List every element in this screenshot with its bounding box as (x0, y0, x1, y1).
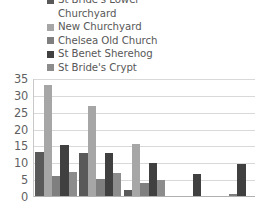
legend-item-label: St Benet Sherehog (58, 47, 153, 61)
bar[interactable] (113, 173, 121, 196)
bar[interactable] (88, 106, 96, 196)
bar[interactable] (35, 152, 43, 196)
legend-item[interactable]: St Bride's Crypt (47, 61, 247, 75)
legend-item[interactable]: St Bride's Lower (47, 0, 247, 7)
bar-group (78, 79, 122, 196)
bar[interactable] (237, 164, 245, 196)
bar[interactable] (149, 163, 157, 196)
bar-group (167, 79, 211, 196)
y-axis-tick-label: 20 (14, 123, 28, 137)
legend-swatch-icon (47, 37, 54, 44)
y-axis-tick-label: 30 (14, 89, 28, 103)
bar[interactable] (157, 180, 165, 196)
bar-group (211, 79, 255, 196)
bar[interactable] (193, 174, 201, 196)
bar[interactable] (60, 145, 68, 196)
y-axis-tick-label: 35 (14, 72, 28, 86)
y-axis-tick-labels: 35302520151050 (0, 79, 32, 197)
bar[interactable] (96, 179, 104, 196)
bar[interactable] (140, 183, 148, 196)
plot-wrapper: 35302520151050 (0, 79, 255, 211)
bar[interactable] (44, 85, 52, 196)
legend-swatch-icon (47, 64, 54, 71)
y-axis-tick-label: 0 (21, 190, 28, 204)
y-axis-tick-label: 25 (14, 106, 28, 120)
bar[interactable] (69, 172, 77, 196)
y-axis-tick-label: 5 (21, 173, 28, 187)
bar[interactable] (52, 176, 60, 196)
legend-item[interactable]: Chelsea Old Church (47, 34, 247, 48)
bar-group (34, 79, 78, 196)
legend-swatch-icon (47, 51, 54, 58)
legend-item[interactable]: New Churchyard (47, 20, 247, 34)
y-axis-tick-label: 10 (14, 156, 28, 170)
bar[interactable] (132, 144, 140, 196)
x-axis-label-area (33, 198, 255, 211)
bar[interactable] (79, 153, 87, 196)
bar-group (122, 79, 166, 196)
legend-swatch-icon (47, 0, 54, 4)
legend-item[interactable]: Churchyard (47, 7, 247, 21)
legend-item[interactable]: St Benet Sherehog (47, 47, 247, 61)
bar[interactable] (229, 194, 237, 196)
bar[interactable] (124, 190, 132, 196)
bar-chart: St Bride's LowerChurchyardNew Churchyard… (0, 0, 255, 211)
plot-area (33, 79, 255, 197)
x-axis-line (34, 196, 255, 197)
legend-item-label: New Churchyard (58, 20, 142, 34)
bar[interactable] (105, 153, 113, 196)
bar-groups (34, 79, 255, 196)
chart-legend: St Bride's LowerChurchyardNew Churchyard… (47, 0, 247, 75)
legend-item-label: St Bride's Lower (58, 0, 140, 7)
y-axis-tick-label: 15 (14, 139, 28, 153)
legend-item-label: St Bride's Crypt (58, 61, 137, 75)
legend-item-label: Churchyard (58, 7, 116, 21)
legend-swatch-icon (47, 24, 54, 31)
legend-item-label: Chelsea Old Church (58, 34, 157, 48)
